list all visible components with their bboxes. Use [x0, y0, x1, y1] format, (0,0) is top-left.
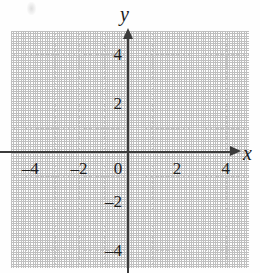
- y-tick-label: 2: [114, 95, 123, 112]
- x-axis-line: [0, 151, 234, 153]
- y-axis-line: [127, 38, 129, 273]
- x-tick-label: 0: [114, 160, 123, 177]
- y-axis-arrowhead-icon: [123, 28, 133, 39]
- y-tick-label: –4: [105, 241, 122, 258]
- vertical-gridline: [152, 31, 153, 268]
- vertical-gridline: [226, 31, 227, 268]
- horizontal-gridline: [11, 176, 249, 177]
- horizontal-gridline: [11, 201, 249, 202]
- vertical-gridline: [104, 31, 105, 268]
- horizontal-gridline: [11, 128, 249, 129]
- y-axis-name-label: y: [120, 4, 129, 24]
- y-tick-label: –2: [105, 192, 122, 209]
- y-tick-label: 4: [114, 46, 123, 63]
- vertical-gridline: [201, 31, 202, 268]
- horizontal-gridline: [11, 54, 249, 55]
- horizontal-gridline: [11, 250, 249, 251]
- x-tick-label: 2: [173, 160, 182, 177]
- x-tick-label: –4: [22, 160, 39, 177]
- scan-smudge-artifact: [27, 2, 36, 15]
- horizontal-gridline: [11, 225, 249, 226]
- vertical-gridline: [30, 31, 31, 268]
- dotted-grid: [11, 31, 249, 268]
- x-axis-arrowhead-icon: [230, 146, 241, 156]
- x-axis-name-label: x: [243, 143, 252, 163]
- vertical-gridline: [177, 31, 178, 268]
- horizontal-gridline: [11, 79, 249, 80]
- vertical-gridline: [55, 31, 56, 268]
- x-tick-label: –2: [71, 160, 88, 177]
- coordinate-plane-figure: –4–2024 42–2–4 x y: [0, 0, 260, 273]
- vertical-gridline: [79, 31, 80, 268]
- horizontal-gridline: [11, 103, 249, 104]
- x-tick-label: 4: [222, 160, 231, 177]
